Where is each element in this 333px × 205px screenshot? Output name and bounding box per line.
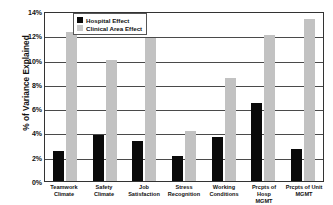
bar-clinical-area-effect — [264, 35, 275, 181]
bar-clinical-area-effect — [106, 60, 117, 181]
y-axis-tick-label: 8% — [18, 81, 42, 88]
bar-hospital-effect — [172, 156, 183, 182]
y-axis-tick-label: 2% — [18, 154, 42, 161]
legend-swatch-icon — [77, 17, 83, 23]
bar-hospital-effect — [251, 103, 262, 181]
y-axis-tick-label: 4% — [18, 130, 42, 137]
bar-hospital-effect — [132, 141, 143, 181]
legend-item: Hospital Effect — [77, 16, 142, 24]
bar-group — [204, 13, 244, 181]
bar-group — [244, 13, 284, 181]
bar-clinical-area-effect — [185, 131, 196, 181]
x-axis-tick-label: TeamworkClimate — [44, 184, 84, 205]
bar-groups — [45, 13, 323, 181]
bar-hospital-effect — [53, 151, 64, 181]
bar-clinical-area-effect — [145, 38, 156, 181]
legend-label: Hospital Effect — [86, 17, 129, 24]
x-axis-tick-label: Prcpts of HospMGMT — [244, 184, 284, 205]
legend-swatch-icon — [77, 25, 83, 31]
x-axis-tick-label: WorkingConditions — [204, 184, 244, 205]
plot-area — [44, 12, 324, 182]
bar-clinical-area-effect — [304, 19, 315, 181]
bar-hospital-effect — [93, 135, 104, 181]
y-axis-tick-label: 12% — [18, 33, 42, 40]
legend-label: Clinical Area Effect — [86, 25, 142, 32]
x-axis-tick-label: Prcpts of UnitMGMT — [284, 184, 324, 205]
bar-group — [45, 13, 85, 181]
x-axis-tick-label: JobSatisfaction — [124, 184, 164, 205]
bar-clinical-area-effect — [225, 78, 236, 181]
y-axis-tick-label: 6% — [18, 106, 42, 113]
bar-hospital-effect — [212, 137, 223, 181]
chart-legend: Hospital EffectClinical Area Effect — [73, 13, 147, 35]
y-axis-tick-label: 0% — [18, 179, 42, 186]
bar-group — [124, 13, 164, 181]
y-axis-tick-label: 14% — [18, 9, 42, 16]
x-axis-tick-label: StressRecognition — [164, 184, 204, 205]
bar-group — [164, 13, 204, 181]
legend-item: Clinical Area Effect — [77, 24, 142, 32]
variance-explained-bar-chart: % of Variance Explained 0%2%4%6%8%10%12%… — [0, 0, 333, 205]
bar-group — [85, 13, 125, 181]
y-axis-tick-label: 10% — [18, 57, 42, 64]
bar-hospital-effect — [291, 149, 302, 181]
bar-group — [283, 13, 323, 181]
y-axis-tick-labels: 0%2%4%6%8%10%12%14% — [18, 0, 42, 205]
x-axis-tick-labels: TeamworkClimateSafety ClimateJobSatisfac… — [44, 184, 324, 205]
bar-clinical-area-effect — [66, 32, 77, 181]
x-axis-tick-label: Safety Climate — [84, 184, 124, 205]
